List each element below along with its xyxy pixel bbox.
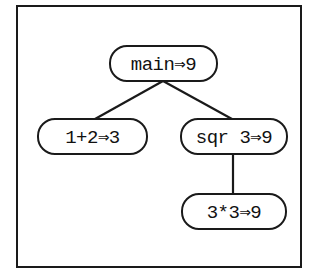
node-main: main⇒9	[109, 45, 218, 82]
node-sqr: sqr 3⇒9	[180, 118, 288, 155]
node-main-label: main⇒9	[131, 52, 196, 76]
edge-main-add	[95, 81, 163, 119]
node-add: 1+2⇒3	[37, 118, 148, 155]
node-mul-label: 3*3⇒9	[207, 200, 262, 224]
edge-main-sqr	[163, 81, 232, 119]
node-sqr-label: sqr 3⇒9	[196, 125, 272, 149]
node-mul: 3*3⇒9	[181, 193, 287, 230]
node-add-label: 1+2⇒3	[65, 125, 120, 149]
